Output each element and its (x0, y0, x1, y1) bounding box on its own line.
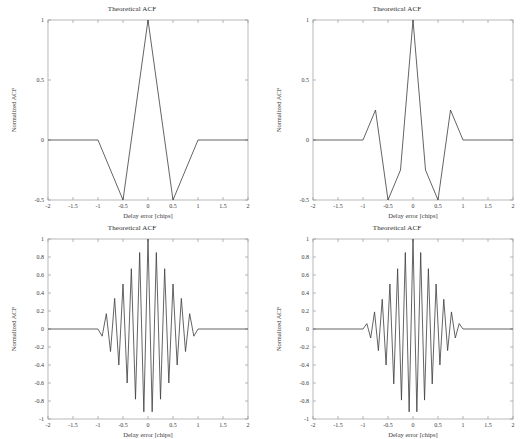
svg-text:0.2: 0.2 (37, 308, 45, 314)
svg-text:-0.8: -0.8 (35, 398, 45, 404)
svg-text:-1: -1 (39, 416, 44, 422)
svg-text:-1.5: -1.5 (333, 203, 343, 209)
svg-text:-2: -2 (46, 422, 51, 428)
svg-text:0.4: 0.4 (302, 290, 310, 296)
svg-text:2: 2 (512, 422, 515, 428)
svg-text:Delay error [chips]: Delay error [chips] (123, 431, 172, 438)
plot-top-left: -2-1.5-1-0.500.511.5210.50-0.5Delay erro… (0, 0, 264, 219)
svg-text:0.5: 0.5 (37, 77, 45, 83)
panel-top-right: Theoretical ACF -2-1.5-1-0.500.511.5210.… (265, 0, 529, 219)
svg-text:1: 1 (306, 17, 309, 23)
panel-bottom-left: Theoretical ACF -2-1.5-1-0.500.511.5210.… (0, 219, 264, 438)
acf-figure: Theoretical ACF -2-1.5-1-0.500.511.5210.… (0, 0, 529, 439)
svg-text:-0.5: -0.5 (383, 203, 393, 209)
svg-text:1: 1 (41, 17, 44, 23)
plot-bottom-left: -2-1.5-1-0.500.511.5210.80.60.40.20-0.2-… (0, 219, 264, 438)
svg-text:-0.4: -0.4 (300, 362, 310, 368)
svg-text:-1.5: -1.5 (333, 422, 343, 428)
svg-text:Delay error [chips]: Delay error [chips] (388, 212, 437, 219)
svg-text:1: 1 (306, 236, 309, 242)
svg-text:1: 1 (462, 203, 465, 209)
svg-text:-0.6: -0.6 (300, 380, 310, 386)
svg-text:1.5: 1.5 (484, 203, 492, 209)
svg-text:0.5: 0.5 (434, 422, 442, 428)
svg-text:Delay error [chips]: Delay error [chips] (123, 212, 172, 219)
svg-text:0.5: 0.5 (302, 77, 310, 83)
svg-text:0.5: 0.5 (169, 422, 177, 428)
svg-text:-1.5: -1.5 (68, 422, 78, 428)
svg-text:-0.8: -0.8 (300, 398, 310, 404)
svg-text:-2: -2 (46, 203, 51, 209)
svg-text:-1: -1 (304, 416, 309, 422)
svg-text:Normalized ACF: Normalized ACF (275, 87, 282, 132)
svg-text:0: 0 (412, 203, 415, 209)
svg-text:0.6: 0.6 (302, 272, 310, 278)
svg-text:-1: -1 (361, 422, 366, 428)
plot-top-right: -2-1.5-1-0.500.511.5210.50-0.5Delay erro… (265, 0, 529, 219)
svg-text:1.5: 1.5 (484, 422, 492, 428)
panel-bottom-right: Theoretical ACF -2-1.5-1-0.500.511.5210.… (265, 219, 529, 438)
svg-text:1: 1 (462, 422, 465, 428)
svg-text:-0.5: -0.5 (383, 422, 393, 428)
svg-text:-0.5: -0.5 (35, 197, 45, 203)
svg-text:2: 2 (512, 203, 515, 209)
svg-text:0: 0 (412, 422, 415, 428)
svg-text:-0.2: -0.2 (300, 344, 310, 350)
svg-text:0: 0 (41, 137, 44, 143)
svg-text:-2: -2 (311, 203, 316, 209)
svg-text:-1.5: -1.5 (68, 203, 78, 209)
svg-text:0.5: 0.5 (434, 203, 442, 209)
svg-text:Normalized ACF: Normalized ACF (275, 306, 282, 351)
svg-text:0: 0 (306, 326, 309, 332)
svg-text:0: 0 (306, 137, 309, 143)
svg-text:-0.2: -0.2 (35, 344, 45, 350)
svg-text:0.2: 0.2 (302, 308, 310, 314)
svg-text:0: 0 (41, 326, 44, 332)
svg-text:1: 1 (41, 236, 44, 242)
svg-text:0: 0 (147, 203, 150, 209)
svg-text:1: 1 (197, 422, 200, 428)
svg-text:1: 1 (197, 203, 200, 209)
svg-text:-0.6: -0.6 (35, 380, 45, 386)
svg-text:2: 2 (247, 203, 250, 209)
svg-text:1.5: 1.5 (219, 203, 227, 209)
svg-text:-2: -2 (311, 422, 316, 428)
svg-text:-1: -1 (361, 203, 366, 209)
svg-text:-0.4: -0.4 (35, 362, 45, 368)
svg-text:-0.5: -0.5 (118, 422, 128, 428)
svg-text:0: 0 (147, 422, 150, 428)
svg-text:Normalized ACF: Normalized ACF (10, 306, 17, 351)
svg-text:0.4: 0.4 (37, 290, 45, 296)
svg-text:Normalized ACF: Normalized ACF (10, 87, 17, 132)
svg-text:2: 2 (247, 422, 250, 428)
svg-text:0.8: 0.8 (37, 254, 45, 260)
svg-text:-0.5: -0.5 (118, 203, 128, 209)
svg-text:0.8: 0.8 (302, 254, 310, 260)
plot-bottom-right: -2-1.5-1-0.500.511.5210.80.60.40.20-0.2-… (265, 219, 529, 438)
svg-text:0.6: 0.6 (37, 272, 45, 278)
svg-text:0.5: 0.5 (169, 203, 177, 209)
svg-text:-0.5: -0.5 (300, 197, 310, 203)
svg-text:1.5: 1.5 (219, 422, 227, 428)
panel-top-left: Theoretical ACF -2-1.5-1-0.500.511.5210.… (0, 0, 264, 219)
svg-text:Delay error [chips]: Delay error [chips] (388, 431, 437, 438)
svg-text:-1: -1 (96, 203, 101, 209)
svg-text:-1: -1 (96, 422, 101, 428)
